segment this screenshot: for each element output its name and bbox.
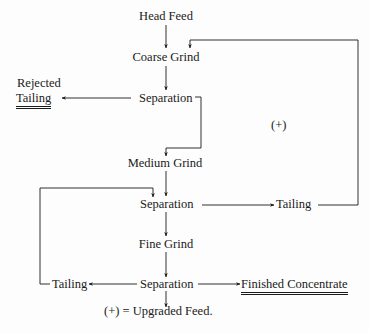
- upgraded-feed-marker: (+): [271, 118, 286, 132]
- node-tailing-3: Tailing: [52, 277, 87, 291]
- node-coarse-grind: Coarse Grind: [133, 50, 200, 64]
- node-medium-grind: Medium Grind: [128, 156, 203, 170]
- node-separation-1: Separation: [139, 91, 192, 105]
- legend-upgraded-feed: (+) = Upgraded Feed.: [104, 304, 213, 318]
- node-fine-grind: Fine Grind: [139, 237, 194, 251]
- node-head-feed: Head Feed: [139, 9, 193, 23]
- node-tailing-2: Tailing: [276, 197, 311, 211]
- node-separation-3: Separation: [140, 277, 193, 291]
- arrow-separation-to-medium-grind: [166, 97, 201, 156]
- node-separation-2: Separation: [140, 197, 193, 211]
- node-rejected-tailing-label: Rejected: [17, 76, 61, 90]
- arrow-tailing-recycle-to-separation: [40, 188, 153, 284]
- node-rejected-tailing: Tailing: [16, 91, 51, 109]
- flow-diagram: Head Feed Coarse Grind Rejected Tailing …: [0, 0, 369, 333]
- node-finished-concentrate: Finished Concentrate: [241, 277, 348, 295]
